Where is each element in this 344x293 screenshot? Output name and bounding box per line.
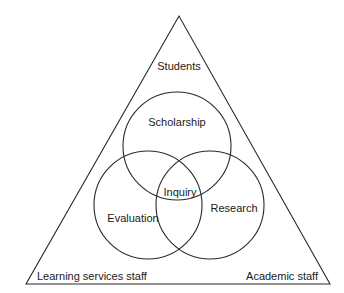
label-scholarship: Scholarship <box>148 116 205 128</box>
outer-triangle <box>26 16 330 284</box>
label-research: Research <box>210 202 257 214</box>
venn-triangle-diagram: Students Scholarship Inquiry Evaluation … <box>0 0 344 293</box>
label-academic-staff: Academic staff <box>246 270 319 282</box>
circle-scholarship <box>123 92 231 200</box>
label-inquiry: Inquiry <box>163 186 197 198</box>
label-evaluation: Evaluation <box>107 212 158 224</box>
label-students: Students <box>157 60 201 72</box>
label-learning-services-staff: Learning services staff <box>37 270 148 282</box>
circle-evaluation <box>94 151 202 259</box>
